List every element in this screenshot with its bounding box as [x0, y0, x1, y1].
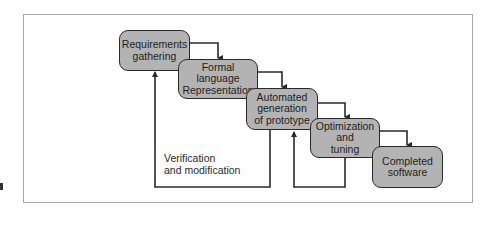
- arrow-optimization-to-completed: [379, 131, 407, 145]
- arrow-formal-to-automated: [257, 72, 282, 87]
- feedback-label-verification: Verification and modification: [164, 153, 240, 176]
- arrow-requirements-to-formal: [189, 43, 218, 58]
- step-optimization-and-tuning: Optimization and tuning: [310, 118, 380, 158]
- step-completed-software: Completed software: [372, 146, 443, 188]
- step-automated-generation-of-prototype: Automated generation of prototype: [246, 88, 318, 130]
- arrow-automated-to-optimization: [317, 103, 345, 117]
